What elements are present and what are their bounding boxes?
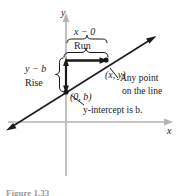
annotation-intercept-label: y-intercept is b.: [83, 106, 142, 116]
point-dot-0b: [63, 89, 68, 94]
rise-word-label: Rise: [25, 78, 43, 88]
figure-caption: Figure 1.33: [6, 188, 49, 196]
rise-arrowhead-top: [63, 58, 69, 67]
point-dot-xy: [103, 57, 108, 62]
annotation-any-point-line2: on the line: [122, 87, 162, 97]
annotation-any-point-line1: Any point: [120, 74, 158, 84]
rise-expression-label: y − b: [25, 64, 46, 74]
line-arrowhead-upper-right: [146, 36, 157, 44]
point-0b-label: (0, b): [70, 92, 92, 102]
x-axis-label: x: [167, 126, 171, 136]
run-word-label: Run: [74, 41, 91, 51]
rise-brace-left: [56, 58, 64, 92]
run-expression-label: x − 0: [74, 27, 95, 37]
rise-segment-group: [63, 58, 69, 95]
run-segment-group: [66, 57, 108, 64]
y-axis-label: y: [61, 8, 65, 18]
slope-intercept-figure: y x x − 0 Run y − b Rise (x, y) (0, b) A…: [0, 0, 189, 196]
